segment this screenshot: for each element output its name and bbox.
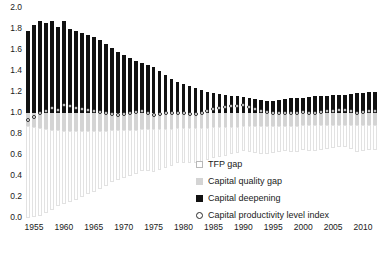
legend-item[interactable]: TFP gap [196,156,329,173]
bar-segment-tfp-gap [319,125,323,150]
bar-segment-capital-quality-gap [128,113,132,130]
bar-segment-tfp-gap [176,128,180,164]
bar-group [367,8,371,218]
capital-productivity-marker [182,111,186,115]
bar-group [50,8,54,218]
bar-segment-capital-deepening [146,65,150,113]
bar-segment-capital-deepening [194,88,198,113]
legend-swatch-capital-quality-gap [196,178,203,185]
bar-segment-capital-deepening [74,31,78,113]
bar-group [80,8,84,218]
bar-segment-tfp-gap [128,130,132,176]
x-axis-tick-label: 1975 [139,223,169,232]
bar-segment-tfp-gap [68,131,72,202]
capital-productivity-marker [50,106,54,110]
capital-productivity-marker [110,112,114,116]
bar-segment-capital-quality-gap [134,113,138,130]
y-axis-tick-label: 1.2 [0,87,22,96]
bar-segment-tfp-gap [62,131,66,205]
bar-segment-capital-quality-gap [104,113,108,131]
bar-segment-tfp-gap [271,126,275,153]
capital-productivity-marker [349,109,353,113]
y-axis-tick-label: 1.8 [0,24,22,33]
bar-segment-capital-quality-gap [224,113,228,127]
bar-segment-capital-quality-gap [337,113,341,125]
y-axis-tick-label: 0.6 [0,150,22,159]
legend-item[interactable]: Capital deepening [196,190,329,207]
legend-item[interactable]: Capital quality gap [196,173,329,190]
bar-segment-tfp-gap [355,125,359,152]
y-axis-tick-label: 0.0 [0,213,22,222]
bar-segment-capital-quality-gap [367,113,371,125]
bar-segment-tfp-gap [230,127,234,154]
chart-legend: TFP gapCapital quality gapCapital deepen… [196,156,329,224]
capital-productivity-marker [68,104,72,108]
bar-segment-capital-quality-gap [62,113,66,131]
capital-productivity-marker [74,106,78,110]
bar-group [62,8,66,218]
bar-segment-tfp-gap [134,130,138,174]
legend-swatch-capital-deepening [196,195,203,202]
legend-item-label: Capital deepening [208,194,281,203]
bar-segment-capital-quality-gap [259,113,263,126]
bar-segment-capital-deepening [116,52,120,113]
bar-segment-tfp-gap [337,125,341,147]
legend-item[interactable]: Capital productivity level index [196,207,329,224]
bar-group [373,8,377,218]
capital-productivity-marker [200,111,204,115]
bar-segment-capital-deepening [80,33,84,113]
bar-segment-tfp-gap [218,127,222,157]
bar-segment-capital-quality-gap [182,113,186,128]
bar-segment-tfp-gap [224,127,228,156]
bar-group [140,8,144,218]
bar-group [343,8,347,218]
bar-group [349,8,353,218]
bar-segment-capital-quality-gap [92,113,96,131]
bar-segment-capital-deepening [86,35,90,113]
bar-group [56,8,60,218]
bar-group [44,8,48,218]
bar-segment-capital-quality-gap [86,113,90,131]
bar-segment-capital-quality-gap [218,113,222,127]
capital-productivity-marker [98,110,102,114]
capital-productivity-marker [373,109,377,113]
y-axis-tick-label: 1.6 [0,45,22,54]
bar-segment-tfp-gap [170,129,174,166]
bar-segment-capital-deepening [152,67,156,113]
bar-segment-tfp-gap [283,126,287,151]
bar-segment-capital-quality-gap [68,113,72,131]
capital-productivity-marker [122,112,126,116]
bar-segment-capital-deepening [32,25,36,113]
bar-segment-tfp-gap [146,129,150,171]
y-axis-tick-label: 1.4 [0,66,22,75]
bar-segment-capital-deepening [188,86,192,113]
bar-segment-tfp-gap [367,125,371,150]
bar-segment-tfp-gap [92,131,96,192]
x-axis-tick-label: 1955 [19,223,49,232]
capital-productivity-marker [92,109,96,113]
x-axis-tick-label: 1990 [228,223,258,232]
capital-productivity-marker [146,111,150,115]
bar-group [86,8,90,218]
bar-segment-tfp-gap [331,125,335,148]
bar-segment-capital-quality-gap [325,113,329,125]
bar-segment-tfp-gap [158,129,162,170]
bar-segment-capital-quality-gap [349,113,353,125]
bar-segment-capital-quality-gap [200,113,204,128]
bar-segment-capital-quality-gap [319,113,323,125]
bar-segment-tfp-gap [32,127,36,217]
legend-swatch-capital-productivity-index [196,212,203,219]
bar-segment-capital-deepening [92,37,96,113]
bar-segment-capital-deepening [164,75,168,113]
x-axis-tick-label: 1960 [49,223,79,232]
bar-segment-tfp-gap [152,129,156,172]
capital-productivity-marker [140,109,144,113]
bar-segment-tfp-gap [140,129,144,171]
capital-productivity-marker [176,111,180,115]
bar-segment-tfp-gap [212,127,216,159]
bar-segment-tfp-gap [38,128,42,216]
capital-productivity-marker [325,109,329,113]
bar-segment-tfp-gap [182,128,186,164]
capital-productivity-marker [343,108,347,112]
bar-segment-capital-quality-gap [170,113,174,129]
